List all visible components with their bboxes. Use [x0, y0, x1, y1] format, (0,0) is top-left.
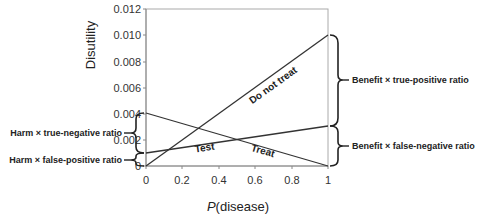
y-tick-label: 0.008 — [113, 56, 141, 68]
x-ticks: 0 0.2 0.4 0.6 0.8 1 — [143, 166, 331, 186]
y-tick-label: 0.006 — [113, 82, 141, 94]
y-ticks: 0 0.002 0.004 0.006 0.008 0.010 0.012 — [113, 3, 146, 172]
label-test: Test — [194, 141, 216, 155]
plot-area — [146, 9, 328, 166]
x-axis-title: P(disease) — [207, 199, 269, 214]
brace-benefit-false-negative — [330, 126, 343, 166]
y-axis-title: Disutility — [83, 20, 98, 69]
series-test — [146, 126, 328, 153]
x-tick-label: 0.4 — [211, 174, 226, 186]
x-tick-label: 0.8 — [284, 174, 299, 186]
y-tick-label: 0.010 — [113, 29, 141, 41]
x-axis-title-rest: (disease) — [216, 199, 269, 214]
label-do-not-treat: Do not treat — [247, 64, 300, 106]
label-treat: Treat — [250, 142, 277, 159]
annotation-harm-true-negative: Harm × true-negative ratio — [10, 128, 122, 138]
annotation-harm-false-positive: Harm × false-positive ratio — [9, 155, 122, 165]
x-tick-label: 0.2 — [174, 174, 189, 186]
annotation-benefit-true-positive: Benefit × true-positive ratio — [352, 75, 469, 85]
x-tick-label: 0.6 — [247, 174, 262, 186]
brace-benefit-true-positive — [330, 35, 343, 126]
y-tick-label: 0.012 — [113, 3, 141, 15]
x-tick-label: 1 — [325, 174, 331, 186]
annotation-benefit-false-negative: Benefit × false-negative ratio — [352, 141, 475, 151]
chart: 0 0.002 0.004 0.006 0.008 0.010 0.012 0 … — [0, 0, 485, 217]
y-tick-label: 0.004 — [113, 108, 141, 120]
x-tick-label: 0 — [143, 174, 149, 186]
x-axis-title-italic: P — [207, 199, 216, 214]
series-do-not-treat — [146, 35, 328, 166]
